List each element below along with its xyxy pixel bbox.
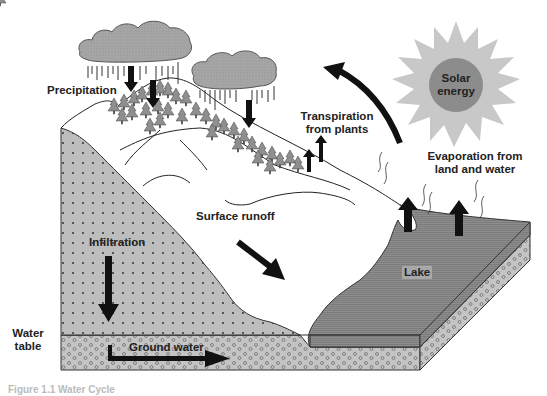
label-evaporation-line2: land and water [405, 163, 545, 176]
label-infiltration: Infiltration [89, 236, 145, 249]
label-evaporation: Evaporation from land and water [405, 150, 545, 176]
label-surface-runoff: Surface runoff [196, 210, 275, 223]
label-solar-line2: energy [426, 85, 486, 98]
label-transpiration-line1: Transpiration [282, 110, 392, 123]
label-water-table: Water table [8, 327, 48, 353]
surface-runoff-arrow [238, 242, 285, 280]
label-water-table-line1: Water [8, 327, 48, 340]
cloud-left [79, 21, 192, 84]
label-transpiration: Transpiration from plants [282, 110, 392, 136]
label-water-table-line2: table [8, 340, 48, 353]
soil-block [61, 128, 300, 335]
transpiration-arrows [303, 135, 327, 172]
label-transpiration-line2: from plants [282, 123, 392, 136]
cloud-right [192, 51, 276, 110]
label-precipitation: Precipitation [47, 84, 117, 97]
label-solar-line1: Solar [426, 72, 486, 85]
label-evaporation-line1: Evaporation from [405, 150, 545, 163]
figure-caption: Figure 1.1 Water Cycle [8, 384, 115, 395]
label-lake: Lake [402, 266, 432, 279]
label-ground-water: Ground water [129, 341, 204, 354]
label-solar-energy: Solar energy [426, 72, 486, 98]
